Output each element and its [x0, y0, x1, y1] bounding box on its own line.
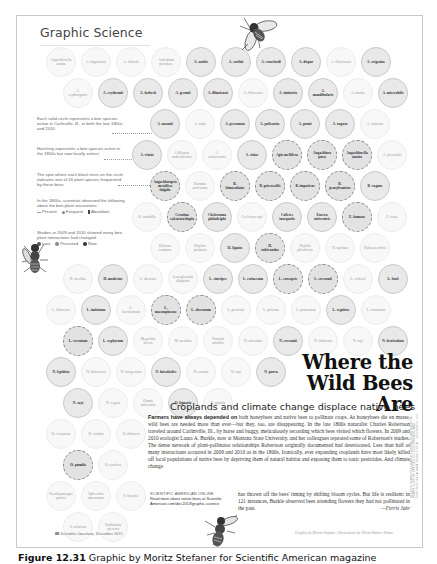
species-label: N. sayi [228, 370, 244, 374]
species-label: L. cinctipes [206, 277, 230, 281]
dot-icon [83, 242, 87, 246]
species-label: A. personata [222, 122, 248, 126]
species-label: O. cordata [86, 432, 107, 436]
species-label: B. pensylvanicus [326, 182, 354, 190]
article-lead: Farmers have always depended on [148, 414, 237, 420]
bee-illustration-icon [20, 238, 50, 278]
species-label: Chelostoma philadelphi [203, 213, 231, 221]
species-bubble: A. imitatrix [273, 78, 303, 108]
species-bubble: N. sayi [221, 357, 251, 387]
species-bubble: N. sayi [63, 388, 93, 418]
species-bubble: B. impatiens [290, 171, 320, 201]
species-bubble: Eucera atriventris [307, 202, 337, 232]
species-label: N. lepidota [50, 370, 73, 374]
species-bubble: E. hamata [342, 202, 372, 232]
species-label: Hoplitis pilosifrons [291, 244, 319, 252]
species-label: L. regulare [329, 308, 352, 312]
online-promo: SCIENTIFIC AMERICAN ONLINE Read more abo… [150, 491, 240, 506]
species-label: A. erythronii [100, 91, 126, 95]
species-label: N. ovatula [191, 370, 212, 374]
species-bubble: A. miserabilis [378, 78, 408, 108]
species-label: N. denticulata [379, 339, 407, 343]
species-bubble: Lasioglossum albipenne [168, 264, 198, 294]
species-bubble: N. lepidota [46, 357, 76, 387]
species-label: A. nuda [191, 122, 208, 126]
species-bubble: N. ovatula [186, 357, 216, 387]
species-bubble: Bombus auricomus [185, 171, 215, 201]
species-bubble: L. laevissimum [116, 295, 146, 325]
species-label: Augochlora pura [308, 151, 336, 159]
species-label: B. bimaculatus [221, 182, 249, 190]
species-bubble: H. modestus [98, 264, 128, 294]
species-bubble: A. forbesii [133, 78, 163, 108]
species-label: Pseudopanurgus parvus [46, 492, 76, 500]
species-label: E. hamata [346, 215, 368, 219]
species-bubble: A. mandibularis [308, 78, 338, 108]
species-label: A. geranii [172, 91, 193, 95]
subheadline: Croplands and climate change displace na… [170, 401, 413, 412]
species-bubble: N. luteoloides [151, 357, 181, 387]
species-bubble: A. dispar [291, 47, 321, 77]
species-label: Bombus auricomus [186, 182, 214, 190]
species-bubble: Sphecodes antennariae [81, 481, 111, 511]
species-bubble: Augochlora pura [307, 140, 337, 170]
species-label: A. ziziaeformis [203, 151, 231, 159]
species-bubble: O. cordata [81, 419, 111, 449]
species-label: Synhalonia speciosa [99, 523, 127, 531]
species-label: Hoplitis producta [186, 244, 214, 252]
online-url-link[interactable]: American.com/dec2013/graphic-science [150, 501, 240, 506]
key-new: New [83, 241, 97, 246]
species-bubble: Chelostoma philadelphi [202, 202, 232, 232]
dot-icon [62, 211, 65, 214]
species-label: B. variabilis [135, 215, 159, 219]
species-bubble: Coelioxys sayi [237, 202, 267, 232]
species-label: A. ziziae [243, 153, 262, 157]
species-bubble: Hoplitis pilosifrons [290, 233, 320, 263]
species-bubble: A. rugosa [325, 109, 355, 139]
species-label: O. conifera [102, 463, 124, 467]
species-bubble: M. mendica [168, 326, 198, 356]
species-label: L. versatum [66, 339, 91, 343]
species-label: N. sayi [70, 401, 86, 405]
species-bubble: L. cressonii [308, 264, 338, 294]
species-bubble: L. coreopsis [273, 264, 303, 294]
species-label: A. illinoiensis [205, 91, 232, 95]
species-bubble: L. obscurum [186, 295, 216, 325]
species-bubble: Megachile brevis [133, 326, 163, 356]
observed-key-row: Present Frequent Abundant [37, 209, 125, 214]
species-bubble: L. pectorale [221, 295, 251, 325]
species-label: L. laevissimum [117, 306, 145, 314]
species-label: Calliopsis andreniformis [168, 151, 196, 159]
source-credit: SOURCE: PLANT-POLLINATOR INTERACTIONS OV… [410, 408, 418, 498]
species-bubble: Apis mellifera [272, 140, 302, 170]
species-bubble: L. zephyrum [98, 326, 128, 356]
leader-line [118, 185, 150, 186]
species-bubble: Hoplitis producta [185, 233, 215, 263]
species-bubble: A. illinoiensis [203, 78, 233, 108]
graphic-credits: Graphic by Moritz Stefaner; Illustration… [295, 531, 393, 535]
species-label: A. salicaria [364, 122, 386, 126]
species-bubble: Synhalonia speciosa [98, 512, 128, 542]
species-bubble: H. rubicundus [255, 233, 285, 263]
species-bubble: A. erigeniae [361, 47, 391, 77]
species-label: N. imbricata [311, 339, 335, 343]
species-label: H. modestus [101, 277, 126, 281]
species-label: Sphecodes antennariae [82, 492, 110, 500]
species-bubble: S. heraclei [116, 481, 146, 511]
species-bubble: Anthidium psoraleae [151, 47, 181, 77]
species-label: N. integerrima [118, 370, 145, 374]
species-bubble: B. griseocollis [255, 171, 285, 201]
species-label: L. zephyrum [100, 339, 126, 343]
species-label: M. mendica [171, 339, 194, 343]
change-key-row: Lost Persisted New [37, 241, 125, 246]
species-label: B. griseocollis [256, 184, 283, 188]
species-label: L. pruinosum [293, 308, 318, 312]
species-label: L. foxii [385, 277, 402, 281]
species-label: H. spoliata [329, 246, 351, 250]
species-bubble: O. pumila [63, 450, 93, 480]
species-label: L. cressonii [311, 277, 335, 281]
key-abundant: Abundant [88, 209, 109, 214]
species-bubble: B. pensylvanicus [325, 171, 355, 201]
species-label: A. miserabilis [379, 91, 406, 95]
species-label: Augochlorella aurata [343, 151, 371, 159]
